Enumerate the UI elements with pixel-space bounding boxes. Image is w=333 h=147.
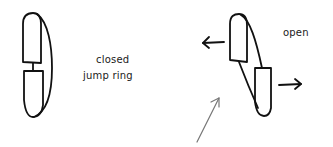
open-ring-lower-half bbox=[255, 68, 271, 116]
closed-ring-lower-half bbox=[24, 71, 43, 117]
arrow-left-icon bbox=[203, 37, 224, 48]
closed-ring-upper-half bbox=[23, 13, 41, 63]
jump-ring-diagram bbox=[0, 0, 333, 147]
open-ring-outer-curve bbox=[241, 15, 262, 68]
jump-ring-label: jump ring bbox=[83, 70, 133, 82]
open-ring-upper-half bbox=[230, 14, 247, 62]
closed-jump-ring-drawing bbox=[23, 13, 52, 117]
arrow-right-icon bbox=[279, 79, 301, 89]
open-jump-ring-drawing bbox=[230, 14, 271, 116]
arrow-up-right-icon bbox=[197, 98, 219, 142]
open-label: open bbox=[283, 27, 309, 39]
closed-label: closed bbox=[96, 54, 129, 66]
